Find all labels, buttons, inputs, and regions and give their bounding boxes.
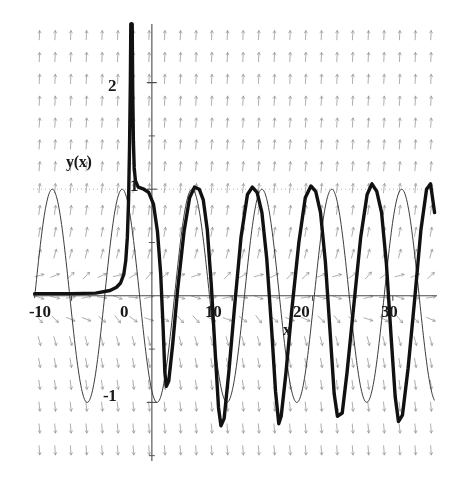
thick-solution-curve xyxy=(35,24,435,426)
figure-canvas: -10 0 10 20 30 2 1 -1 y(x) x xyxy=(0,0,468,484)
slope-field-plot xyxy=(0,0,468,484)
axis-lines xyxy=(33,24,437,461)
x-tick-label-10: 10 xyxy=(205,302,221,322)
slope-field-arrows xyxy=(35,31,436,455)
y-tick-label--1: -1 xyxy=(103,386,117,406)
y-tick-label-2: 2 xyxy=(108,76,116,96)
x-tick-label--10: -10 xyxy=(29,302,51,322)
x-tick-label-30: 30 xyxy=(381,302,397,322)
y-tick-label-1: 1 xyxy=(130,176,138,196)
x-axis-name-label: x xyxy=(283,321,291,339)
y-axis-name-label: y(x) xyxy=(66,153,91,171)
x-tick-label-0: 0 xyxy=(120,302,128,322)
x-tick-label-20: 20 xyxy=(293,302,309,322)
